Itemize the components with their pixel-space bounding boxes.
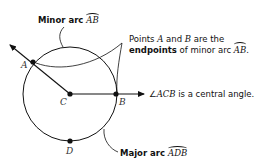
label-point-b: B bbox=[119, 98, 126, 107]
endpoints-note: Points A and B are the endpoints of mino… bbox=[129, 34, 249, 56]
ray-ca bbox=[10, 45, 70, 94]
leader-major-arc bbox=[104, 129, 118, 152]
circle-diagram bbox=[0, 0, 256, 167]
point-a bbox=[30, 59, 35, 64]
leader-minor-arc bbox=[60, 27, 64, 47]
endpoints-line-1: Points A and B are the bbox=[129, 34, 249, 45]
endpoints-line-2: endpoints of minor arc AB. bbox=[129, 45, 249, 56]
central-angle-note: ∠ACB is a central angle. bbox=[149, 90, 254, 99]
minor-arc-name: AB bbox=[86, 16, 98, 25]
point-d bbox=[67, 138, 72, 143]
leader-endpoint-a bbox=[36, 43, 122, 67]
point-c bbox=[67, 91, 72, 96]
minor-arc-label: Minor arc AB bbox=[38, 16, 99, 25]
label-point-a: A bbox=[21, 61, 28, 70]
major-arc-label: Major arc ADB bbox=[120, 149, 187, 158]
label-point-d: D bbox=[66, 147, 73, 156]
label-point-c: C bbox=[60, 98, 67, 107]
leader-endpoint-b bbox=[117, 43, 122, 92]
point-b bbox=[113, 91, 118, 96]
major-arc-name: ADB bbox=[168, 149, 187, 158]
